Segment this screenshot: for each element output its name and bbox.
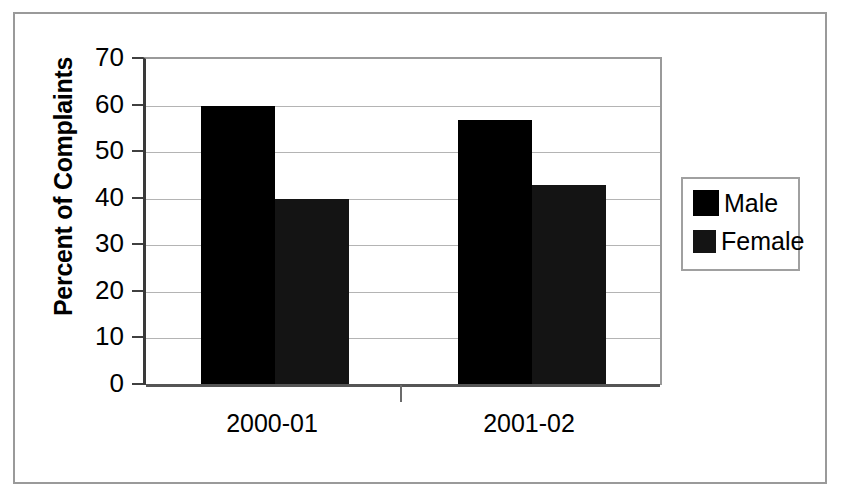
plot-area [143,57,662,385]
y-axis-tick-mark [132,57,143,59]
x-axis-tick-label: 2001-02 [439,409,619,438]
bar-male-2000-01 [201,106,275,385]
legend-label-female: Female [721,229,804,254]
legend-label-male: Male [724,191,778,216]
y-axis-tick-label: 60 [95,91,124,117]
y-axis-tick-mark [132,290,143,292]
y-axis-tick-label: 20 [95,277,124,303]
legend-entry-male: Male [693,190,778,216]
y-axis-tick-mark [132,336,143,338]
y-axis-tick-mark [132,104,143,106]
y-axis-tick-mark [132,243,143,245]
legend-swatch-female-icon [693,230,716,253]
y-axis-tick-mark [132,197,143,199]
y-axis-tick-label: 0 [110,370,124,396]
y-axis-tick-mark [132,150,143,152]
y-axis-tick-label: 70 [95,44,124,70]
y-axis-tick-label-group: 010203040506070 [62,40,132,390]
y-axis-tick-mark [132,383,143,385]
y-axis-tick-label: 50 [95,137,124,163]
y-axis-tick-label: 10 [95,323,124,349]
chart-figure: Percent of Complaints 010203040506070 20… [0,0,846,496]
bar-female-2000-01 [275,199,349,385]
y-axis-tick-label: 40 [95,184,124,210]
bar-female-2001-02 [532,185,606,385]
plot-inner [146,59,660,385]
bar-male-2001-02 [458,120,532,385]
legend: Male Female [681,177,800,271]
legend-swatch-male-icon [693,190,719,216]
legend-entry-female: Female [693,229,804,254]
x-axis-category-separator-tick [400,385,402,402]
y-axis-tick-label: 30 [95,230,124,256]
x-axis-tick-label: 2000-01 [182,409,362,438]
x-axis-line [146,384,660,387]
